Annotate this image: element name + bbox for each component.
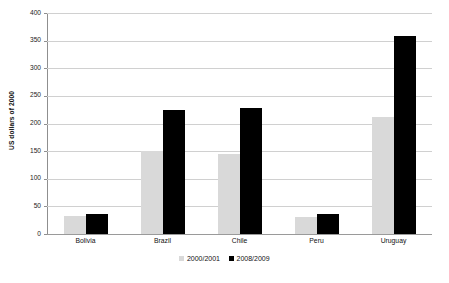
y-tick-label-50: 50 <box>11 203 41 210</box>
x-axis-label-bolivia: Bolivia <box>47 238 124 245</box>
bar-peru-2008-2009 <box>317 214 339 234</box>
legend-label-2000-2001: 2000/2001 <box>187 255 220 262</box>
x-axis-label-peru: Peru <box>278 238 355 245</box>
bar-chart: US dollars of 2000 400350300250200150100… <box>0 0 449 283</box>
gridline-400 <box>47 13 432 14</box>
x-axis-category-labels: BoliviaBrazilChilePeruUruguay <box>47 238 432 252</box>
y-tick-mark-100 <box>44 179 47 180</box>
y-tick-label-100: 100 <box>11 175 41 182</box>
y-tick-mark-200 <box>44 124 47 125</box>
bar-peru-2000-2001 <box>295 217 317 234</box>
y-tick-label-350: 350 <box>11 37 41 44</box>
bar-bolivia-2000-2001 <box>64 216 86 234</box>
x-axis-label-brazil: Brazil <box>124 238 201 245</box>
bar-uruguay-2000-2001 <box>372 117 394 234</box>
bar-uruguay-2008-2009 <box>394 36 416 234</box>
gridline-350 <box>47 41 432 42</box>
bar-brazil-2008-2009 <box>163 110 185 234</box>
y-axis-tick-labels: 400350300250200150100500 <box>8 0 41 283</box>
bar-chile-2000-2001 <box>218 154 240 234</box>
y-tick-mark-250 <box>44 96 47 97</box>
y-tick-mark-350 <box>44 41 47 42</box>
bar-chile-2008-2009 <box>240 108 262 234</box>
y-tick-label-200: 200 <box>11 120 41 127</box>
legend-swatch-icon-2000-2001 <box>179 256 184 261</box>
chart-legend: 2000/20012008/2009 <box>0 255 449 262</box>
y-tick-label-300: 300 <box>11 65 41 72</box>
legend-swatch-icon-2008-2009 <box>229 256 234 261</box>
x-axis-label-chile: Chile <box>201 238 278 245</box>
y-tick-mark-0 <box>44 234 47 235</box>
gridline-0 <box>47 234 432 235</box>
legend-item-2000-2001[interactable]: 2000/2001 <box>179 255 220 262</box>
bar-brazil-2000-2001 <box>141 151 163 234</box>
gridline-250 <box>47 96 432 97</box>
legend-label-2008-2009: 2008/2009 <box>237 255 270 262</box>
plot-area <box>47 13 432 234</box>
y-tick-mark-150 <box>44 151 47 152</box>
y-tick-mark-400 <box>44 13 47 14</box>
bar-bolivia-2008-2009 <box>86 214 108 234</box>
y-tick-label-250: 250 <box>11 92 41 99</box>
legend-item-2008-2009[interactable]: 2008/2009 <box>229 255 270 262</box>
chart-screenshot: US dollars of 2000 400350300250200150100… <box>0 0 449 283</box>
x-axis-label-uruguay: Uruguay <box>355 238 432 245</box>
y-tick-mark-50 <box>44 206 47 207</box>
y-tick-mark-300 <box>44 68 47 69</box>
y-tick-label-400: 400 <box>11 10 41 17</box>
y-tick-label-150: 150 <box>11 148 41 155</box>
y-tick-label-0: 0 <box>11 231 41 238</box>
gridline-300 <box>47 68 432 69</box>
